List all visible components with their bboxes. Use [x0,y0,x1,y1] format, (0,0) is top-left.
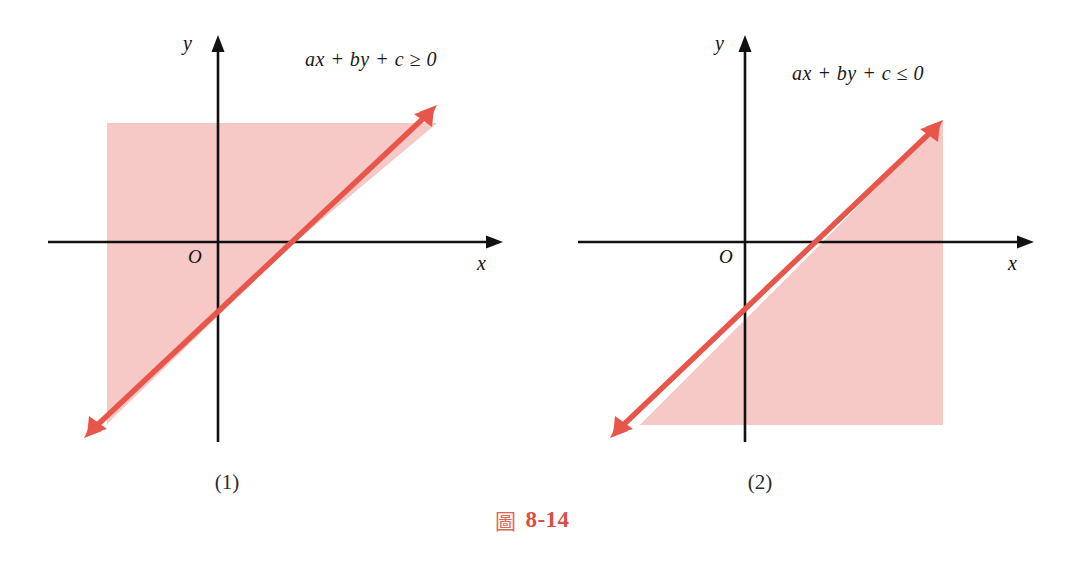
x-axis-2 [578,236,1034,249]
y-axis-label-2: y [715,32,724,55]
origin-label-2: O [719,246,733,268]
figure-caption-number: 8-14 [525,507,569,532]
inequality-label-1: ax + by + c ≥ 0 [305,48,437,71]
figure-page: ax + by + c ≥ 0 y x O (1) [0,0,1065,565]
shaded-region-1 [107,123,437,424]
x-axis-label-1: x [477,252,486,275]
diagram-panel-2: ax + by + c ≤ 0 y x O (2) [530,0,1065,520]
figure-caption-cjk: 圖 [495,510,516,534]
diagram-panel-1: ax + by + c ≥ 0 y x O (1) [0,0,530,520]
y-axis-label-1: y [183,32,192,55]
figure-caption: 圖8-14 [0,505,1065,535]
inequality-label-2: ax + by + c ≤ 0 [792,62,924,85]
diagram-1-graphic [0,0,530,520]
subfigure-caption-2: (2) [720,470,800,495]
origin-label-1: O [188,246,202,268]
x-axis-label-2: x [1008,252,1017,275]
subfigure-caption-1: (1) [187,470,267,495]
